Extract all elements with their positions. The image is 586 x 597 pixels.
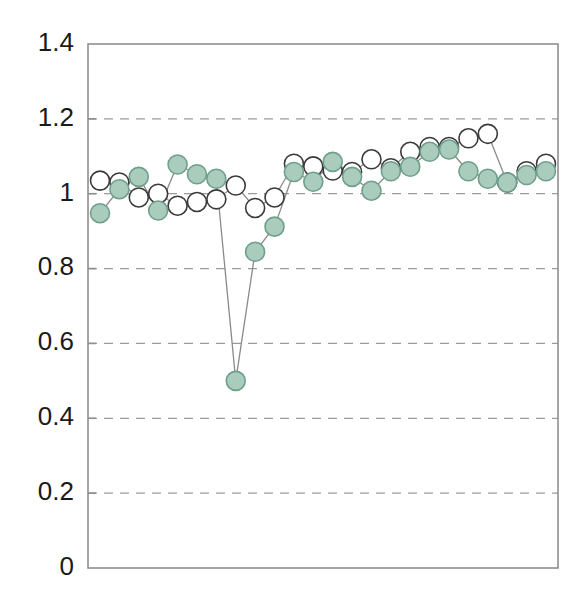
data-point-filled-circles-2[interactable] [110,180,129,199]
data-point-filled-circles-21[interactable] [478,169,497,188]
data-point-open-circles-15[interactable] [362,150,381,169]
ytick-label-1.4: 1.4 [38,27,74,57]
data-point-filled-circles-12[interactable] [304,172,323,191]
plot-frame-rect [88,44,558,568]
data-point-filled-circles-24[interactable] [537,162,556,181]
ytick-label-1: 1 [60,177,74,207]
data-point-filled-circles-17[interactable] [401,157,420,176]
data-point-filled-circles-3[interactable] [129,167,148,186]
line-chart: 00.20.40.60.811.21.4 [0,0,586,597]
data-point-filled-circles-19[interactable] [440,140,459,159]
data-point-open-circles-8[interactable] [226,176,245,195]
ytick-label-1.2: 1.2 [38,102,74,132]
data-point-open-circles-1[interactable] [91,171,110,190]
data-point-filled-circles-14[interactable] [343,167,362,186]
data-point-filled-circles-6[interactable] [187,165,206,184]
y-axis-tick-labels: 00.20.40.60.811.21.4 [38,27,74,581]
data-series-layer [91,124,556,390]
data-point-open-circles-5[interactable] [168,196,187,215]
data-point-filled-circles-4[interactable] [149,201,168,220]
data-point-filled-circles-11[interactable] [284,163,303,182]
data-point-open-circles-3[interactable] [129,188,148,207]
data-point-filled-circles-15[interactable] [362,181,381,200]
data-point-filled-circles-22[interactable] [498,173,517,192]
plot-frame [88,44,558,568]
series-markers-filled-circles [91,140,556,390]
data-point-open-circles-7[interactable] [207,190,226,209]
ytick-label-0: 0 [60,551,74,581]
ytick-label-0.6: 0.6 [38,326,74,356]
data-point-filled-circles-5[interactable] [168,155,187,174]
ytick-label-0.4: 0.4 [38,401,74,431]
data-point-open-circles-10[interactable] [265,188,284,207]
ytick-label-0.8: 0.8 [38,251,74,281]
data-point-filled-circles-9[interactable] [246,242,265,261]
data-point-filled-circles-13[interactable] [323,152,342,171]
data-point-open-circles-21[interactable] [478,124,497,143]
data-point-filled-circles-23[interactable] [517,166,536,185]
data-point-filled-circles-20[interactable] [459,162,478,181]
data-point-filled-circles-7[interactable] [207,169,226,188]
ytick-label-0.2: 0.2 [38,476,74,506]
data-point-open-circles-9[interactable] [246,198,265,217]
data-point-filled-circles-18[interactable] [420,142,439,161]
data-point-open-circles-20[interactable] [459,129,478,148]
data-point-filled-circles-16[interactable] [381,162,400,181]
data-point-filled-circles-10[interactable] [265,217,284,236]
data-point-filled-circles-1[interactable] [91,204,110,223]
chart-container: 00.20.40.60.811.21.4 [0,0,586,597]
data-point-open-circles-6[interactable] [187,192,206,211]
data-point-filled-circles-8[interactable] [226,371,245,390]
